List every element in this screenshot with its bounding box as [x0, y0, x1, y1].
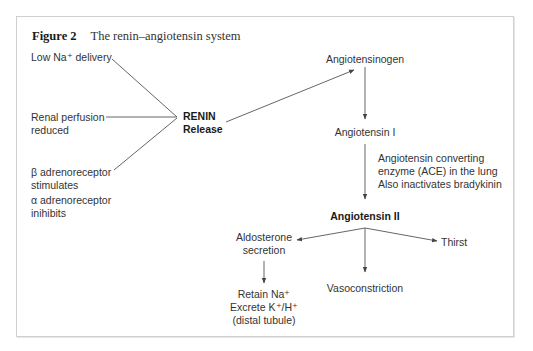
- arrow-renin-angiotensinogen: [226, 70, 354, 122]
- renin-release-label: Release: [183, 123, 223, 136]
- stimulus-alpha-2: inihibits: [31, 207, 66, 220]
- stimulus-low-na: Low Na⁺ delivery: [31, 51, 112, 64]
- effect-thirst: Thirst: [441, 236, 467, 249]
- stimulus-renal-2: reduced: [31, 124, 69, 137]
- ace-note-3: Also inactivates bradykinin: [378, 178, 502, 191]
- ace-note-1: Angiotensin converting: [378, 152, 484, 165]
- node-angiotensin-2: Angiotensin II: [315, 210, 415, 223]
- renin-label: RENIN: [183, 110, 216, 123]
- effect-retain-3: (distal tubule): [219, 314, 309, 327]
- stimulus-beta-2: stimulates: [31, 179, 78, 192]
- connector-beta: [114, 118, 177, 170]
- connector-low-na: [112, 59, 177, 117]
- node-angiotensinogen: Angiotensinogen: [315, 53, 415, 66]
- effect-retain-1: Retain Na⁺: [219, 288, 309, 301]
- effect-aldosterone-1: Aldosterone: [224, 231, 304, 244]
- node-angiotensin-1: Angiotensin I: [315, 126, 415, 139]
- effect-vasoconstriction: Vasoconstriction: [315, 282, 415, 295]
- effect-retain-2: Excrete K⁺/H⁺: [219, 301, 309, 314]
- stimulus-alpha-1: α adrenoreceptor: [31, 194, 111, 207]
- stimulus-renal-1: Renal perfusion: [31, 111, 105, 124]
- stimulus-beta-1: β adrenoreceptor: [31, 166, 111, 179]
- arrow-to-thirst: [365, 228, 437, 241]
- ace-note-2: enzyme (ACE) in the lung: [378, 165, 498, 178]
- arrow-to-aldosterone: [297, 228, 365, 240]
- effect-aldosterone-2: secretion: [224, 244, 304, 257]
